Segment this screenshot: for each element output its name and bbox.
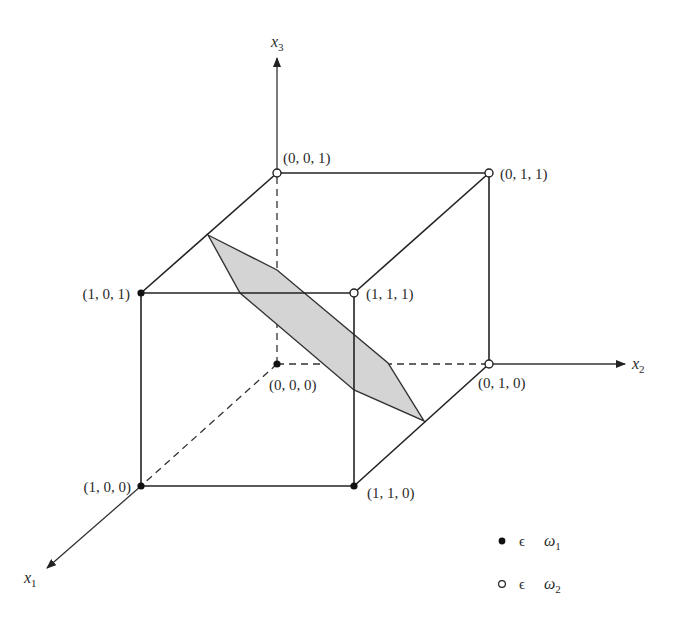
label-111: (1, 1, 1): [366, 286, 414, 303]
label-110: (1, 1, 0): [367, 485, 415, 502]
vertex-001: [273, 169, 281, 177]
vertex-100: [137, 482, 144, 489]
label-010: (0, 1, 0): [478, 375, 526, 392]
label-011: (0, 1, 1): [500, 166, 548, 183]
vertex-101: [137, 289, 144, 296]
x2-label: x2: [631, 355, 645, 375]
x3-label: x3: [270, 33, 284, 53]
legend-element-of-2: ϵ: [519, 576, 525, 592]
legend-open-dot-icon: [499, 581, 506, 588]
legend: ϵ ω1 ϵ ω2: [499, 532, 561, 595]
label-100: (1, 0, 0): [84, 479, 132, 496]
hidden-edge-x1: [141, 364, 277, 486]
label-101: (1, 0, 1): [83, 286, 131, 303]
legend-class-1: ω1: [544, 532, 561, 552]
vertex-111: [350, 289, 358, 297]
decision-plane: [208, 235, 424, 421]
cube-diagram: (0, 0, 1) (0, 1, 1) (1, 0, 1) (1, 1, 1) …: [0, 0, 678, 631]
x1-label: x1: [23, 569, 37, 589]
vertex-110: [350, 482, 357, 489]
legend-filled-dot-icon: [499, 538, 506, 545]
legend-class-2: ω2: [544, 575, 561, 595]
label-001: (0, 0, 1): [283, 150, 331, 167]
vertex-000: [273, 360, 280, 367]
legend-element-of-1: ϵ: [519, 533, 525, 549]
label-000: (0, 0, 0): [269, 377, 317, 394]
vertex-010: [485, 360, 493, 368]
vertex-011: [485, 169, 493, 177]
x1-axis: [47, 486, 141, 568]
